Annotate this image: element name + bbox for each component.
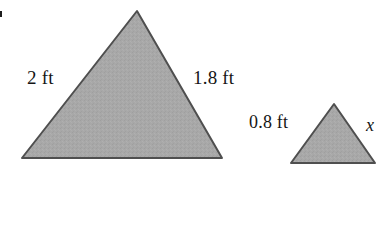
small-triangle-left-side-label: 0.8 ft xyxy=(249,113,288,131)
small-triangle xyxy=(291,104,375,163)
small-triangle-right-side-label: x xyxy=(366,116,374,134)
large-triangle-right-side-label: 1.8 ft xyxy=(193,68,234,87)
large-triangle-left-side-label: 2 ft xyxy=(27,68,54,87)
